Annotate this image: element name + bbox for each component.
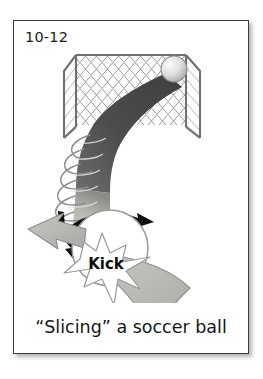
kick-label: Kick <box>88 255 125 273</box>
soccer-slice-illustration: Kick <box>14 43 247 303</box>
figure-caption: “Slicing” a soccer ball <box>14 317 248 337</box>
soccer-ball-in-goal <box>161 56 187 82</box>
figure-card: 10-12 <box>13 20 249 354</box>
